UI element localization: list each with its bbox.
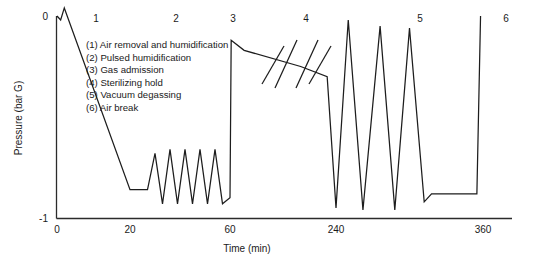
phase-label-2: 2 <box>173 13 179 24</box>
legend-entry-6: (6) Air break <box>86 102 138 113</box>
pressure-time-chart: 0 -1 0 20 60 240 360 Time (min) Pressure… <box>0 0 537 276</box>
phase-label-4: 4 <box>303 13 309 24</box>
phase-label-3: 3 <box>230 13 236 24</box>
legend-entry-5: (5) Vacuum degassing <box>86 89 181 100</box>
phase-label-5: 5 <box>417 13 423 24</box>
axis-break-symbol <box>262 40 331 88</box>
legend-entry-3: (3) Gas admission <box>86 64 164 75</box>
legend-entry-4: (4) Sterilizing hold <box>86 77 163 88</box>
y-tick-label-minus-1: -1 <box>39 213 48 224</box>
x-axis-title: Time (min) <box>223 243 270 254</box>
y-tick-label-0: 0 <box>42 11 48 22</box>
x-tick-label-0: 0 <box>54 224 60 235</box>
x-tick-label-20: 20 <box>124 224 136 235</box>
legend-entry-2: (2) Pulsed humidification <box>86 52 191 63</box>
x-tick-label-60: 60 <box>224 224 236 235</box>
y-axis-title: Pressure (bar G) <box>13 81 24 155</box>
legend-entry-1: (1) Air removal and humidification <box>86 39 228 50</box>
phase-label-1: 1 <box>93 13 99 24</box>
x-tick-label-240: 240 <box>328 224 345 235</box>
x-tick-label-360: 360 <box>475 224 492 235</box>
chart-svg: 0 -1 0 20 60 240 360 Time (min) Pressure… <box>0 0 537 276</box>
phase-label-6: 6 <box>503 13 509 24</box>
